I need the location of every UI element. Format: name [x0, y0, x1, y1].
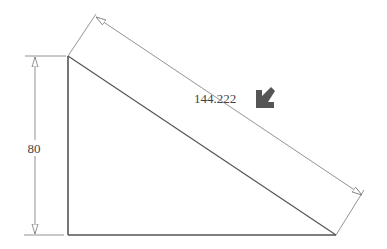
- triangle-shape[interactable]: [68, 56, 336, 235]
- hypotenuse-dimension-value: 144.222: [194, 91, 236, 106]
- hypotenuse-dimension[interactable]: 144.222: [68, 14, 364, 235]
- arrow-down-left-icon: [256, 87, 275, 108]
- vertical-dimension-value: 80: [28, 141, 41, 156]
- vertical-dimension[interactable]: 80: [24, 56, 66, 235]
- cad-drawing: 80 144.222: [0, 0, 387, 249]
- extension-line-top-vertex: [68, 14, 96, 56]
- extension-line-bottom-vertex: [336, 190, 364, 235]
- dimension-line-hypotenuse: [96, 17, 362, 195]
